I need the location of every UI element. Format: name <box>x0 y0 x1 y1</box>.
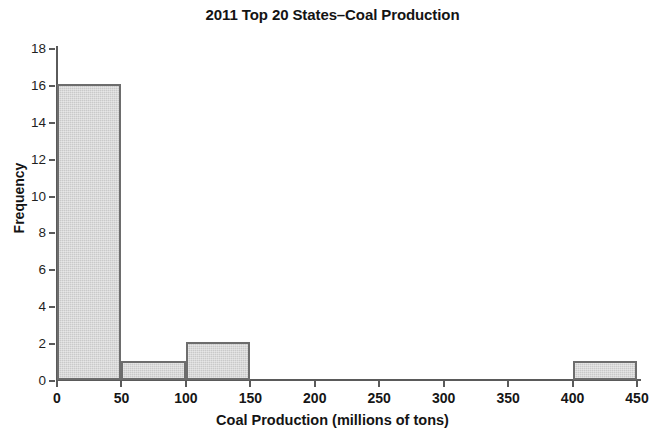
x-tick-mark <box>636 380 638 387</box>
histogram-chart: 2011 Top 20 States–Coal Production 02468… <box>0 0 665 448</box>
y-tick-label: 12 <box>31 151 46 166</box>
y-tick-label: 14 <box>31 114 46 129</box>
y-tick-mark <box>49 48 55 50</box>
histogram-bar <box>573 361 637 380</box>
x-tick-label: 300 <box>432 390 455 406</box>
y-tick-label: 16 <box>31 77 46 92</box>
x-tick-label: 0 <box>53 390 61 406</box>
y-tick-mark <box>49 159 55 161</box>
x-tick-mark <box>56 380 58 387</box>
histogram-bar <box>121 361 185 380</box>
y-tick-mark <box>49 232 55 234</box>
y-tick-label: 6 <box>38 262 46 277</box>
y-tick-mark <box>49 122 55 124</box>
y-axis-title: Frequency <box>11 138 27 258</box>
x-tick-label: 250 <box>368 390 391 406</box>
y-tick-label: 8 <box>38 225 46 240</box>
x-tick-mark <box>378 380 380 387</box>
chart-title: 2011 Top 20 States–Coal Production <box>0 6 665 23</box>
x-tick-mark <box>314 380 316 387</box>
y-tick-label: 10 <box>31 188 46 203</box>
x-tick-mark <box>185 380 187 387</box>
x-tick-label: 200 <box>303 390 326 406</box>
y-tick-mark <box>49 269 55 271</box>
x-tick-label: 350 <box>496 390 519 406</box>
x-axis-title: Coal Production (millions of tons) <box>0 412 665 428</box>
y-tick-mark <box>49 196 55 198</box>
x-tick-mark <box>120 380 122 387</box>
x-tick-label: 450 <box>625 390 648 406</box>
x-tick-mark <box>507 380 509 387</box>
x-tick-label: 150 <box>239 390 262 406</box>
y-tick-label: 0 <box>38 373 46 388</box>
y-tick-mark <box>49 85 55 87</box>
x-tick-label: 400 <box>561 390 584 406</box>
y-tick-mark <box>49 343 55 345</box>
histogram-bar <box>186 342 250 380</box>
y-tick-mark <box>49 306 55 308</box>
y-tick-label: 18 <box>31 41 46 56</box>
x-tick-mark <box>443 380 445 387</box>
x-tick-label: 100 <box>174 390 197 406</box>
y-tick-label: 2 <box>38 336 46 351</box>
x-tick-label: 50 <box>114 390 130 406</box>
histogram-bar <box>57 84 121 380</box>
x-tick-mark <box>572 380 574 387</box>
y-tick-mark <box>49 380 55 382</box>
y-tick-label: 4 <box>38 299 46 314</box>
x-tick-mark <box>249 380 251 387</box>
plot-area: 024681012141618 050100150200250300350400… <box>57 48 637 380</box>
